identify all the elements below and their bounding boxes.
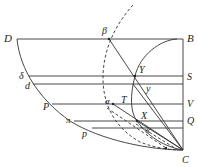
point-alpha [112,103,114,105]
label-V: V [187,98,195,109]
label-y: y [145,83,151,94]
label-Y: Y [139,64,146,75]
label-pi: π [66,115,71,125]
point-lower [165,147,167,149]
label-delta: δ [19,70,24,81]
label-D: D [3,32,12,44]
label-beta: β [101,25,107,36]
label-P: P [42,101,49,112]
label-X: X [140,110,148,121]
label-C: C [182,154,189,165]
label-p: p [81,128,87,139]
label-d: d [25,80,31,91]
label-T: T [121,94,128,105]
point-beta [108,38,110,40]
geometric-diagram: D B β δ d S Y y P V T α X x Q π p C [0,0,198,167]
point-Y [134,75,136,77]
label-alpha: α [105,96,110,106]
label-Q: Q [187,115,195,126]
label-x: x [145,125,150,135]
line-X-C [137,121,183,150]
label-S: S [187,71,192,82]
label-B: B [187,32,194,44]
point-X [136,120,138,122]
